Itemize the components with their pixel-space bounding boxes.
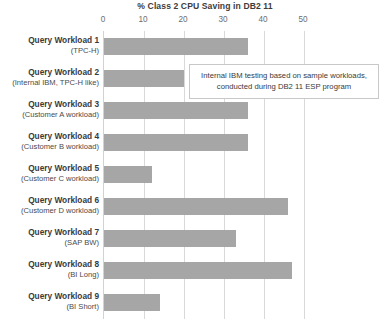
category-label-secondary: (Customer B workload)	[0, 142, 99, 153]
category-label-secondary: (Customer A workload)	[0, 110, 99, 121]
category-label-primary: Query Workload 3	[0, 99, 99, 110]
x-tick-label: 40	[251, 15, 275, 24]
bar	[104, 102, 248, 119]
bar-row	[104, 223, 304, 255]
category-label: Query Workload 1(TPC-H)	[0, 35, 99, 56]
category-label-secondary: (BI Short)	[0, 302, 99, 313]
category-label-secondary: (TPC-H)	[0, 46, 99, 57]
category-label-secondary: (Customer D workload)	[0, 206, 99, 217]
y-axis-category-labels: Query Workload 1(TPC-H)Query Workload 2(…	[0, 31, 99, 319]
category-label-secondary: (Customer C workload)	[0, 174, 99, 185]
category-label: Query Workload 3(Customer A workload)	[0, 99, 99, 120]
category-label-primary: Query Workload 4	[0, 131, 99, 142]
category-label-secondary: (BI Long)	[0, 270, 99, 281]
bar-row	[104, 127, 304, 159]
category-label: Query Workload 2(Internal IBM, TPC-H lik…	[0, 67, 99, 88]
category-label-primary: Query Workload 2	[0, 67, 99, 78]
x-axis-tick-labels: 01020304050	[0, 15, 392, 28]
x-tick-label: 20	[171, 15, 195, 24]
x-tick-label: 50	[291, 15, 315, 24]
annotation-callout: Internal IBM testing based on sample wor…	[189, 64, 379, 99]
bar-row	[104, 31, 304, 63]
bar-row	[104, 255, 304, 287]
category-label-primary: Query Workload 1	[0, 35, 99, 46]
annotation-line-2: conducted during DB2 11 ESP program	[194, 81, 374, 92]
category-label: Query Workload 7(SAP BW)	[0, 227, 99, 248]
annotation-line-1: Internal IBM testing based on sample wor…	[194, 70, 374, 81]
category-label: Query Workload 4(Customer B workload)	[0, 131, 99, 152]
bar	[104, 294, 160, 311]
bar	[104, 198, 288, 215]
chart-container: % Class 2 CPU Saving in DB2 11 010203040…	[0, 0, 392, 330]
category-label: Query Workload 5(Customer C workload)	[0, 163, 99, 184]
bar	[104, 230, 236, 247]
category-label-primary: Query Workload 9	[0, 291, 99, 302]
bar	[104, 38, 248, 55]
category-label-secondary: (Internal IBM, TPC-H like)	[0, 78, 99, 89]
category-label-primary: Query Workload 5	[0, 163, 99, 174]
category-label: Query Workload 6(Customer D workload)	[0, 195, 99, 216]
x-tick-label: 0	[91, 15, 115, 24]
bar	[104, 70, 184, 87]
bar-row	[104, 191, 304, 223]
category-label-secondary: (SAP BW)	[0, 238, 99, 249]
category-label: Query Workload 9(BI Short)	[0, 291, 99, 312]
x-tick-label: 30	[211, 15, 235, 24]
chart-title: % Class 2 CPU Saving in DB2 11	[95, 1, 315, 11]
x-tick-label: 10	[131, 15, 155, 24]
bar	[104, 166, 152, 183]
bar	[104, 262, 292, 279]
category-label-primary: Query Workload 7	[0, 227, 99, 238]
bar	[104, 134, 248, 151]
bar-row	[104, 159, 304, 191]
bar-row	[104, 287, 304, 319]
category-label-primary: Query Workload 6	[0, 195, 99, 206]
category-label: Query Workload 8(BI Long)	[0, 259, 99, 280]
bar-row	[104, 95, 304, 127]
category-label-primary: Query Workload 8	[0, 259, 99, 270]
